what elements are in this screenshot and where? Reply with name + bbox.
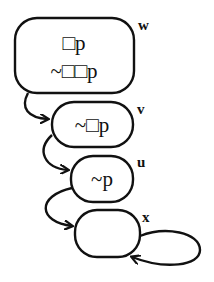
arrow-u-to-x <box>46 188 72 226</box>
world-x-box <box>75 210 140 257</box>
arrow-x-to-x-loop <box>132 231 200 265</box>
world-v-label: v <box>137 101 145 117</box>
world-w-label: w <box>138 17 149 33</box>
world-u-formula-1: ~p <box>91 167 113 191</box>
world-w: □p ~□□p w <box>15 17 149 93</box>
world-w-formula-2: ~□□p <box>50 59 97 83</box>
world-x: x <box>75 209 150 257</box>
arrow-v-to-u <box>44 135 68 170</box>
world-v: ~□p v <box>52 101 145 147</box>
world-u-label: u <box>137 154 145 170</box>
world-u: ~p u <box>71 154 145 202</box>
world-v-formula-1: ~□p <box>75 113 110 137</box>
kripke-diagram: □p ~□□p w ~□p v ~p u x <box>0 0 214 282</box>
arrow-w-to-v <box>25 93 48 119</box>
world-w-formula-1: □p <box>62 31 85 55</box>
world-x-label: x <box>142 209 150 225</box>
